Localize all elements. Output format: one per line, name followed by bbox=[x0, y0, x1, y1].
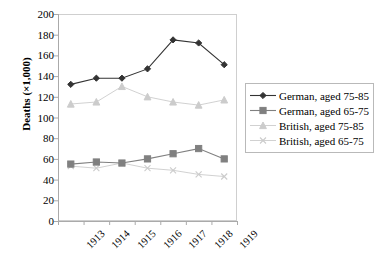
legend-label: British, aged 65-75 bbox=[277, 135, 364, 147]
y-tick-label: 0 bbox=[28, 216, 54, 226]
legend-item: British, aged 75-85 bbox=[246, 118, 373, 133]
legend-square-icon bbox=[249, 104, 277, 117]
data-point-marker bbox=[196, 145, 202, 151]
y-tick-label: 140 bbox=[28, 71, 54, 81]
data-point-marker bbox=[144, 93, 151, 100]
data-point-marker bbox=[93, 159, 99, 165]
figure-container: Deaths (×1,000) 200180160140120100806040… bbox=[0, 0, 383, 275]
y-axis-tick-labels: 200180160140120100806040200 bbox=[26, 0, 54, 232]
legend-diamond-icon bbox=[249, 89, 277, 102]
y-tick-label: 120 bbox=[28, 92, 54, 102]
legend-label: German, aged 65-75 bbox=[277, 105, 369, 117]
y-tick-label: 200 bbox=[28, 9, 54, 19]
data-point-marker bbox=[170, 151, 176, 157]
legend-label: British, aged 75-85 bbox=[277, 120, 364, 132]
data-point-marker bbox=[260, 92, 266, 98]
y-tick-label: 20 bbox=[28, 195, 54, 205]
y-tick-label: 180 bbox=[28, 30, 54, 40]
y-tick-label: 60 bbox=[28, 154, 54, 164]
y-tick-label: 40 bbox=[28, 175, 54, 185]
legend-cross-icon bbox=[249, 134, 277, 147]
data-point-marker bbox=[119, 160, 125, 166]
data-point-marker bbox=[68, 161, 74, 167]
series-4 bbox=[68, 160, 227, 179]
chart-legend: German, aged 75-85German, aged 65-75Brit… bbox=[245, 83, 374, 153]
y-tick-label: 80 bbox=[28, 133, 54, 143]
data-point-marker bbox=[68, 81, 74, 87]
data-point-marker bbox=[221, 96, 228, 103]
legend-item: German, aged 75-85 bbox=[246, 88, 373, 103]
series-3 bbox=[67, 83, 227, 108]
series-1 bbox=[68, 37, 228, 88]
plot-border bbox=[59, 15, 237, 221]
series-2 bbox=[68, 145, 228, 167]
data-point-marker bbox=[144, 156, 150, 162]
data-point-marker bbox=[93, 75, 99, 81]
legend-item: British, aged 65-75 bbox=[246, 133, 373, 148]
y-tick-label: 100 bbox=[28, 113, 54, 123]
legend-triangle-icon bbox=[249, 119, 277, 132]
data-point-marker bbox=[119, 75, 125, 81]
data-point-marker bbox=[221, 156, 227, 162]
legend-label: German, aged 75-85 bbox=[277, 90, 369, 102]
legend-item: German, aged 65-75 bbox=[246, 103, 373, 118]
data-point-marker bbox=[260, 107, 266, 113]
data-point-marker bbox=[119, 83, 126, 90]
y-tick-label: 160 bbox=[28, 50, 54, 60]
